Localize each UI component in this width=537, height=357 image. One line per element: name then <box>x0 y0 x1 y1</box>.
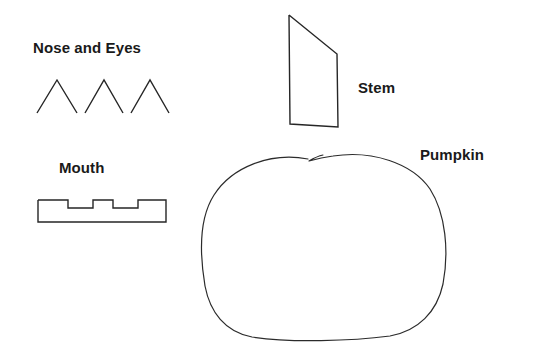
pumpkin-template-figure: Nose and Eyes Mouth Stem Pumpkin <box>0 0 537 357</box>
mouth-label: Mouth <box>59 160 104 175</box>
pumpkin-outline <box>201 155 445 341</box>
mouth-shape <box>38 200 166 222</box>
nose-and-eyes-label: Nose and Eyes <box>33 40 141 55</box>
stem-shape <box>289 15 338 127</box>
nose-eye-triangle-1 <box>37 80 77 113</box>
nose-eye-triangle-3 <box>131 80 169 113</box>
stem-label: Stem <box>358 80 395 95</box>
pumpkin-label: Pumpkin <box>420 147 484 162</box>
nose-eye-triangle-2 <box>85 80 123 113</box>
